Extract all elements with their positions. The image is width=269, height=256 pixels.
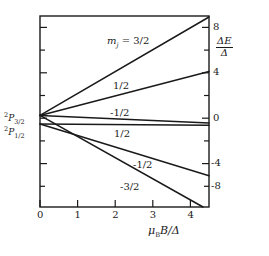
term-symbol-p12: 2P1/2 [4,126,25,139]
right-axis-ticks [202,27,209,186]
y-axis-denominator: Δ [216,48,233,59]
term-symbol-p32: 2P3/2 [4,112,25,125]
x-axis-title: μBB/Δ [148,225,180,239]
y-tick-label-4: 4 [213,67,219,77]
zeeman-splitting-figure: 0 1 2 3 4 μBB/Δ 8 4 0 -4 -8 ΔE Δ 2P3/2 2… [0,0,269,256]
y-tick-label-n4: -4 [211,158,221,168]
x-tick-label-3: 3 [150,210,156,220]
term-p32-j: 3/2 [14,118,24,126]
y-axis-title: ΔE Δ [216,36,233,58]
annotation-p12-mj-1-2: 1/2 [114,129,130,139]
annotation-mj-3-2: mj = 3/2 [107,36,149,49]
x-tick-label-4: 4 [187,210,193,220]
left-axis-ticks [40,27,47,186]
curve-p32-mj-3-2 [40,17,209,115]
x-tick-label-2: 2 [112,210,118,220]
x-tick-label-1: 1 [75,210,81,220]
curve-p12-mj-1-2 [40,124,209,125]
mj-equals-value: = 3/2 [119,35,150,46]
y-tick-label-8: 8 [213,22,219,32]
x-tick-label-0: 0 [37,210,43,220]
x-axis-rest: B/Δ [160,224,180,237]
annotation-p32-mj-m1-2: -1/2 [110,108,129,118]
x-axis-ticks [40,200,190,207]
y-axis-fraction: ΔE Δ [216,36,233,58]
y-axis-numerator: ΔE [216,36,233,48]
annotation-p12-mj-m1-2: -1/2 [133,160,152,170]
annotation-p32-mj-m3-2: -3/2 [120,182,139,192]
annotation-p32-mj-1-2: 1/2 [113,81,129,91]
y-tick-label-0: 0 [213,113,219,123]
term-p12-j: 1/2 [14,132,24,140]
y-tick-label-n8: -8 [211,181,221,191]
